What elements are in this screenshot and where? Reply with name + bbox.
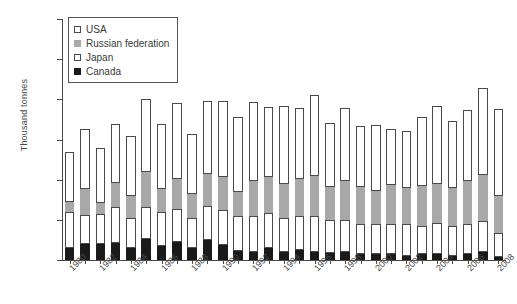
legend-item: Canada [74, 64, 169, 78]
bar-segment-russia [371, 191, 381, 224]
russia-swatch [74, 40, 81, 47]
bar-segment-russia [478, 175, 488, 221]
bar-segment-russia [249, 181, 259, 216]
x-axis-tick-mark [116, 260, 117, 264]
bar-segment-russia [264, 177, 274, 213]
bar-segment-canada [218, 245, 228, 260]
bar-segment-japan [478, 221, 488, 252]
bar-segment-russia [80, 189, 90, 215]
bar-2004 [432, 19, 442, 260]
bar-segment-japan [218, 210, 228, 245]
bar-1998 [340, 19, 350, 260]
bar-segment-usa [432, 106, 442, 183]
bar-1997 [325, 19, 335, 260]
bar-segment-usa [141, 99, 151, 172]
bar-segment-russia [233, 192, 243, 216]
bar-segment-usa [478, 88, 488, 174]
bar-segment-usa [340, 108, 350, 181]
bar-segment-russia [325, 187, 335, 220]
bar-segment-japan [96, 214, 106, 244]
japan-swatch [74, 54, 81, 61]
bar-segment-japan [494, 233, 504, 257]
bar-segment-japan [111, 207, 121, 243]
legend-item: USA [74, 22, 169, 36]
bar-segment-canada [157, 246, 167, 260]
legend-item: Japan [74, 50, 169, 64]
bar-segment-japan [264, 213, 274, 248]
bar-segment-japan [249, 216, 259, 252]
bar-segment-russia [340, 181, 350, 220]
bar-segment-russia [187, 194, 197, 218]
bar-segment-japan [141, 207, 151, 239]
bar-segment-russia [463, 181, 473, 224]
bar-segment-usa [187, 134, 197, 194]
x-axis-tick-mark [146, 260, 147, 264]
x-axis-tick-mark [422, 260, 423, 264]
bar-segment-japan [448, 226, 458, 256]
bar-1996 [310, 19, 320, 260]
bar-segment-usa [371, 125, 381, 190]
bar-1994 [279, 19, 289, 260]
x-axis-tick-mark [483, 260, 484, 264]
bar-segment-usa [65, 152, 75, 202]
bar-segment-japan [432, 223, 442, 253]
bar-segment-japan [463, 224, 473, 254]
bar-segment-japan [402, 224, 412, 256]
bar-1991 [233, 19, 243, 260]
legend-item-label: Canada [86, 66, 121, 77]
bar-segment-japan [340, 220, 350, 252]
bar-segment-japan [65, 212, 75, 248]
bar-segment-japan [233, 216, 243, 251]
x-axis-tick-mark [85, 260, 86, 264]
bar-segment-russia [310, 176, 320, 216]
bar-2001 [386, 19, 396, 260]
bar-segment-usa [218, 101, 228, 177]
bar-segment-usa [203, 101, 213, 173]
bar-segment-usa [325, 123, 335, 187]
bar-2002 [402, 19, 412, 260]
bar-segment-japan [172, 209, 182, 242]
x-axis-tick-mark [391, 260, 392, 264]
usa-swatch [74, 26, 81, 33]
bar-segment-russia [295, 179, 305, 216]
legend-item-label: USA [86, 24, 107, 35]
bar-segment-japan [295, 216, 305, 250]
x-axis-tick-mark [330, 260, 331, 264]
bar-segment-russia [417, 186, 427, 226]
bar-segment-usa [111, 124, 121, 183]
bar-segment-japan [126, 218, 136, 248]
bar-1995 [295, 19, 305, 260]
bar-segment-usa [249, 102, 259, 180]
bar-segment-japan [356, 224, 366, 254]
bar-1992 [249, 19, 259, 260]
bar-segment-japan [417, 226, 427, 255]
bar-1993 [264, 19, 274, 260]
bar-segment-usa [126, 136, 136, 196]
bar-segment-usa [356, 126, 366, 186]
bar-segment-russia [494, 196, 504, 233]
bar-2008 [494, 19, 504, 260]
bar-segment-usa [279, 106, 289, 183]
bar-segment-russia [141, 172, 151, 207]
bar-2005 [448, 19, 458, 260]
y-axis-title: Thousand tonnes [19, 45, 29, 185]
bar-segment-usa [402, 131, 412, 188]
x-axis-tick-mark [299, 260, 300, 264]
bar-segment-russia [279, 184, 289, 218]
bar-segment-russia [203, 174, 213, 206]
chart-legend: USARussian federationJapanCanada [68, 17, 178, 83]
bar-segment-russia [402, 188, 412, 224]
x-axis-tick-mark [238, 260, 239, 264]
bar-segment-russia [172, 179, 182, 209]
bar-segment-japan [157, 212, 167, 246]
x-axis-tick-mark [452, 260, 453, 264]
bar-segment-usa [233, 117, 243, 192]
bar-segment-japan [371, 224, 381, 254]
x-axis-tick-mark [361, 260, 362, 264]
bar-2003 [417, 19, 427, 260]
bar-1999 [356, 19, 366, 260]
bar-segment-japan [386, 224, 396, 254]
bar-2006 [463, 19, 473, 260]
bar-1989 [203, 19, 213, 260]
